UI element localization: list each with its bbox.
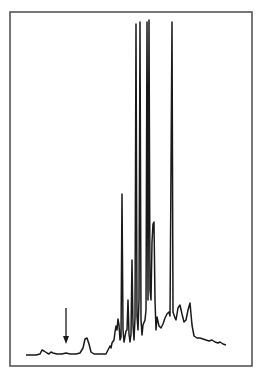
chromatogram-trace (26, 20, 226, 355)
annotation-layer (63, 308, 69, 344)
arrow-down-icon (63, 336, 69, 344)
chromatogram-plot (0, 0, 259, 374)
chromatogram-figure (0, 0, 259, 374)
